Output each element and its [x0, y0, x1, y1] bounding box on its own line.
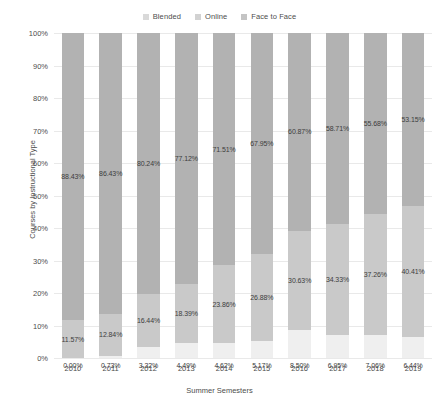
legend-label: Online [205, 12, 227, 21]
y-axis-tick-label: 80% [33, 94, 48, 103]
blended-segment[interactable]: 4.49% [175, 343, 198, 358]
data-label: 30.63% [288, 277, 311, 284]
online-segment[interactable]: 26.88% [251, 254, 274, 341]
online-segment[interactable]: 23.86% [213, 265, 236, 343]
chart-legend: BlendedOnlineFace to Face [0, 12, 439, 21]
x-axis-tick-label: 2013 [178, 364, 195, 373]
blended-segment[interactable]: 3.32% [137, 347, 160, 358]
face-to-face-segment[interactable]: 60.87% [288, 33, 311, 231]
blended-segment[interactable]: 6.44% [402, 337, 425, 358]
x-axis-tick-label: 2011 [103, 364, 119, 373]
legend-swatch-icon [241, 14, 247, 20]
online-segment[interactable]: 40.41% [402, 206, 425, 337]
data-label: 26.88% [250, 294, 273, 301]
x-axis-tick-label: 2019 [405, 364, 422, 373]
x-axis-tick-label: 2010 [65, 364, 82, 373]
bar-column[interactable]: 80.24%16.44%3.32% [137, 33, 160, 358]
y-axis-tick-label: 70% [33, 126, 48, 135]
blended-segment[interactable]: 5.17% [251, 341, 274, 358]
x-axis-title: Summer Semesters [0, 386, 439, 395]
data-label: 58.71% [326, 125, 349, 132]
bar-column[interactable]: 58.71%34.33%6.95% [326, 33, 349, 358]
blended-segment[interactable]: 0.73% [99, 356, 122, 358]
data-label: 18.39% [175, 310, 198, 317]
bar-column[interactable]: 88.43%11.57%0.00% [62, 33, 85, 358]
x-axis-tick-label: 2016 [291, 364, 308, 373]
data-label: 11.57% [62, 336, 85, 343]
data-label: 12.84% [99, 331, 122, 338]
face-to-face-segment[interactable]: 77.12% [175, 33, 198, 284]
face-to-face-segment[interactable]: 88.43% [62, 33, 85, 320]
bar-column[interactable]: 77.12%18.39%4.49% [175, 33, 198, 358]
data-label: 55.68% [364, 120, 387, 127]
bar-column[interactable]: 86.43%12.84%0.73% [99, 33, 122, 358]
blended-segment[interactable]: 8.50% [288, 330, 311, 358]
data-label: 16.44% [137, 317, 160, 324]
face-to-face-segment[interactable]: 80.24% [137, 33, 160, 294]
y-axis-tick-label: 50% [33, 191, 48, 200]
legend-item-online[interactable]: Online [195, 12, 227, 21]
online-segment[interactable]: 34.33% [326, 224, 349, 336]
y-axis-tick-label: 60% [33, 159, 48, 168]
y-axis-tick-label: 0% [37, 354, 48, 363]
data-label: 37.26% [364, 271, 387, 278]
data-label: 40.41% [402, 268, 425, 275]
online-segment[interactable]: 18.39% [175, 284, 198, 344]
y-axis-tick-label: 100% [29, 29, 48, 38]
data-label: 88.43% [61, 173, 84, 180]
data-label: 60.87% [288, 128, 311, 135]
y-axis-tick-label: 90% [33, 61, 48, 70]
data-label: 86.43% [99, 170, 122, 177]
y-axis-tick-label: 40% [33, 224, 48, 233]
x-axis-tick-label: 2014 [216, 364, 233, 373]
bar-column[interactable]: 53.15%40.41%6.44% [402, 33, 425, 358]
y-axis-tick-label: 20% [33, 289, 48, 298]
face-to-face-segment[interactable]: 71.51% [213, 33, 236, 265]
x-axis-tick-label: 2015 [254, 364, 271, 373]
face-to-face-segment[interactable]: 67.95% [251, 33, 274, 254]
online-segment[interactable]: 30.63% [288, 231, 311, 331]
online-segment[interactable]: 16.44% [137, 294, 160, 347]
x-axis-tick-label: 2018 [367, 364, 384, 373]
gridline [54, 358, 432, 359]
online-segment[interactable]: 11.57% [62, 320, 85, 358]
legend-item-face-to-face[interactable]: Face to Face [241, 12, 296, 21]
bar-column[interactable]: 55.68%37.26%7.06% [364, 33, 387, 358]
y-axis-tick-label: 30% [33, 256, 48, 265]
bar-column[interactable]: 60.87%30.63%8.50% [288, 33, 311, 358]
face-to-face-segment[interactable]: 58.71% [326, 33, 349, 224]
data-label: 34.33% [326, 276, 349, 283]
x-axis-tick-label: 2012 [140, 364, 157, 373]
plot-area: 0%10%20%30%40%50%60%70%80%90%100%88.43%1… [54, 33, 432, 358]
online-segment[interactable]: 12.84% [99, 314, 122, 356]
y-axis-tick-label: 10% [33, 321, 48, 330]
stacked-bar-chart: BlendedOnlineFace to Face Courses by Ins… [0, 0, 439, 409]
legend-swatch-icon [195, 14, 201, 20]
online-segment[interactable]: 37.26% [364, 214, 387, 335]
face-to-face-segment[interactable]: 55.68% [364, 33, 387, 214]
legend-item-blended[interactable]: Blended [143, 12, 181, 21]
legend-label: Face to Face [251, 12, 296, 21]
blended-segment[interactable]: 4.62% [213, 343, 236, 358]
legend-swatch-icon [143, 14, 149, 20]
data-label: 71.51% [213, 146, 236, 153]
x-axis-tick-label: 2017 [329, 364, 346, 373]
face-to-face-segment[interactable]: 53.15% [402, 33, 425, 206]
bar-column[interactable]: 71.51%23.86%4.62% [213, 33, 236, 358]
data-label: 23.86% [213, 301, 236, 308]
face-to-face-segment[interactable]: 86.43% [99, 33, 122, 314]
legend-label: Blended [153, 12, 181, 21]
data-label: 77.12% [175, 155, 198, 162]
data-label: 53.15% [402, 116, 425, 123]
data-label: 67.95% [250, 140, 273, 147]
bar-column[interactable]: 67.95%26.88%5.17% [251, 33, 274, 358]
blended-segment[interactable]: 6.95% [326, 335, 349, 358]
blended-segment[interactable]: 7.06% [364, 335, 387, 358]
data-label: 80.24% [137, 160, 160, 167]
